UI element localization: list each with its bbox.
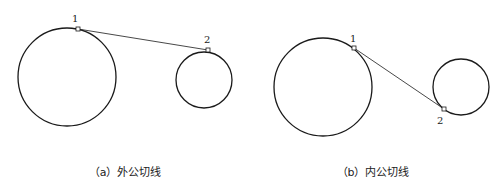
tangent-point-marker-2 <box>206 48 210 52</box>
tangent-point-marker-1 <box>352 46 356 50</box>
small-circle <box>433 59 489 115</box>
tangent-line <box>354 48 444 109</box>
tangent-line <box>78 29 208 50</box>
caption-a: （a）外公切线 <box>89 165 162 179</box>
small-circle <box>176 52 232 108</box>
tangent-point-marker-2 <box>442 107 446 111</box>
point-label-1: 1 <box>72 13 78 24</box>
point-label-1: 1 <box>350 33 356 44</box>
tangent-point-marker-1 <box>76 27 80 31</box>
point-label-2: 2 <box>204 34 210 45</box>
large-circle <box>274 38 372 136</box>
tangent-lines-diagram: 12（a）外公切线12（b）内公切线 <box>0 0 502 186</box>
panel-b: 12（b）内公切线 <box>274 33 489 179</box>
point-label-2: 2 <box>437 115 443 126</box>
panel-a: 12（a）外公切线 <box>18 13 232 179</box>
caption-b: （b）内公切线 <box>337 165 410 179</box>
large-circle <box>18 28 116 126</box>
